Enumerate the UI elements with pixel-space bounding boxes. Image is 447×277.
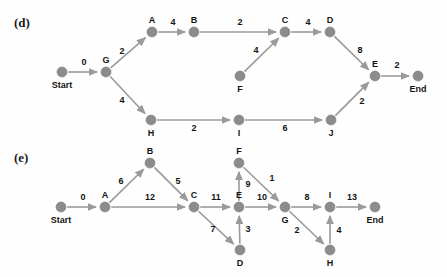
edge-weight-C-D: 4: [305, 17, 310, 27]
edge-B-to-C: [154, 167, 187, 200]
edge-weight-G-H: 2: [294, 225, 299, 235]
panel-label-e: (e): [14, 150, 28, 165]
node-A: [100, 202, 110, 212]
edge-weight-F-C: 4: [253, 45, 258, 55]
node-G: [101, 67, 111, 77]
edge-A-to-B: [109, 169, 143, 202]
edge-D-to-E: [239, 216, 240, 244]
nodes-group: StartGABCDFEEndHIJ: [52, 15, 427, 138]
edge-weight-F-G: 1: [269, 173, 274, 183]
edge-weight-C-E: 11: [211, 192, 221, 202]
node-label-C: C: [191, 190, 198, 200]
node-A: [147, 27, 157, 37]
node-H: [146, 115, 156, 125]
edge-weight-I-J: 6: [282, 123, 287, 133]
node-B: [189, 27, 199, 37]
edge-weight-A-B: 4: [170, 17, 175, 27]
node-label-End: End: [410, 84, 427, 94]
node-G: [280, 202, 290, 212]
node-label-A: A: [102, 190, 109, 200]
node-label-A: A: [149, 15, 156, 25]
edge-weight-G-I: 8: [304, 192, 309, 202]
node-label-F: F: [236, 146, 242, 156]
node-I: [325, 202, 335, 212]
panel-d: (d)024244824262StartGABCDFEEndHIJ: [14, 15, 427, 138]
edge-weight-E-End: 2: [394, 60, 399, 70]
node-label-E: E: [372, 59, 378, 69]
node-D: [325, 27, 335, 37]
node-H: [325, 245, 335, 255]
node-E: [370, 71, 380, 81]
node-E: [234, 202, 244, 212]
edge-weight-G-H: 4: [119, 95, 124, 105]
edge-F-to-C: [244, 38, 278, 71]
node-label-H: H: [327, 258, 334, 268]
panel-label-d: (d): [14, 15, 30, 30]
node-label-G: G: [102, 55, 109, 65]
edge-weight-H-I: 2: [191, 123, 196, 133]
node-F: [235, 71, 245, 81]
node-label-G: G: [281, 215, 288, 225]
panels-layer: (d)024244824262StartGABCDFEEndHIJ(e)0651…: [14, 15, 427, 268]
edge-weight-B-C: 5: [175, 176, 180, 186]
node-label-B: B: [191, 15, 198, 25]
edge-weight-I-End: 13: [347, 192, 357, 202]
node-label-C: C: [282, 15, 289, 25]
edge-weight-D-E: 8: [357, 45, 362, 55]
node-label-End: End: [367, 215, 384, 225]
node-label-I: I: [238, 128, 241, 138]
edge-D-to-E: [334, 36, 368, 69]
node-label-J: J: [328, 128, 333, 138]
node-B: [145, 158, 155, 168]
edge-weight-E-G: 10: [257, 192, 267, 202]
node-label-I: I: [329, 190, 332, 200]
edge-weight-C-D: 7: [210, 224, 215, 234]
node-F: [234, 158, 244, 168]
node-label-D: D: [327, 15, 334, 25]
node-label-E: E: [236, 190, 242, 200]
node-D: [235, 245, 245, 255]
node-C: [280, 27, 290, 37]
node-label-B: B: [147, 146, 154, 156]
edge-C-to-D: [199, 211, 234, 244]
node-label-H: H: [148, 128, 155, 138]
edge-weight-Start-G: 0: [81, 57, 86, 67]
edge-weight-Start-A: 0: [80, 192, 85, 202]
edges-group: 065121173910182413: [67, 167, 366, 244]
node-label-Start: Start: [51, 215, 72, 225]
node-I: [234, 115, 244, 125]
edge-weight-H-I: 4: [336, 225, 341, 235]
edge-weight-G-A: 2: [119, 46, 124, 56]
edge-weight-A-C: 12: [145, 192, 155, 202]
node-C: [189, 202, 199, 212]
node-End: [413, 71, 423, 81]
node-End: [370, 202, 380, 212]
edge-weight-B-C: 2: [237, 17, 242, 27]
figure-root: (d)024244824262StartGABCDFEEndHIJ(e)0651…: [0, 0, 447, 277]
node-label-Start: Start: [52, 80, 73, 90]
panel-e: (e)065121173910182413StartABCEFDGHIEnd: [14, 146, 384, 268]
activity-network-diagram: (d)024244824262StartGABCDFEEndHIJ(e)0651…: [0, 0, 447, 277]
node-Start: [56, 202, 66, 212]
edge-weight-J-E: 2: [359, 96, 364, 106]
node-Start: [57, 67, 67, 77]
edge-weight-A-B: 6: [118, 176, 123, 186]
node-label-F: F: [237, 84, 243, 94]
edge-weight-E-F: 9: [245, 179, 250, 189]
edge-G-to-A: [111, 38, 146, 68]
node-J: [326, 115, 336, 125]
node-label-D: D: [237, 258, 244, 268]
edge-weight-D-E: 3: [245, 224, 250, 234]
edge-G-to-H: [110, 77, 145, 114]
